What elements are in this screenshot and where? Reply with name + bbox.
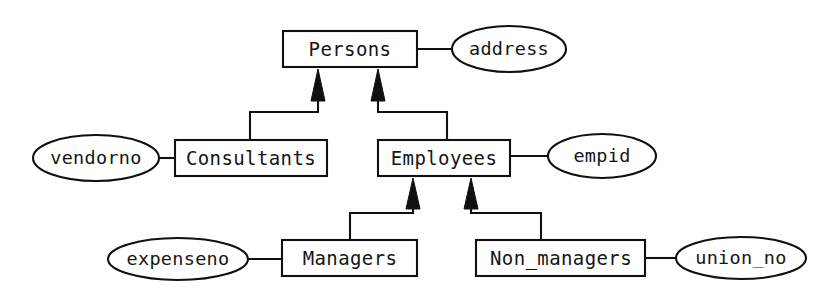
entity-employees[interactable]: Employees <box>378 140 510 176</box>
managers-isa-arrowhead <box>406 178 420 209</box>
er-diagram-canvas: Persons Consultants Employees Managers N… <box>0 0 829 306</box>
entity-persons[interactable]: Persons <box>283 31 417 67</box>
attribute-vendorno[interactable]: vendorno <box>33 135 159 181</box>
managers-isa-employees-path <box>350 209 413 240</box>
entity-label-employees: Employees <box>391 147 498 169</box>
attribute-label-expenseno: expenseno <box>127 248 230 269</box>
consultants-isa-persons-path <box>250 101 318 140</box>
er-diagram-svg: Persons Consultants Employees Managers N… <box>0 0 829 306</box>
isa-connectors-employees <box>350 209 541 240</box>
entity-label-consultants: Consultants <box>186 147 316 169</box>
non_managers-isa-arrowhead <box>464 178 478 209</box>
employees-isa-persons-path <box>378 101 447 140</box>
attribute-label-union-no: union_no <box>695 247 787 268</box>
isa-connectors-persons <box>250 101 447 140</box>
entity-label-persons: Persons <box>309 38 392 60</box>
entity-non-managers[interactable]: Non_managers <box>476 240 645 276</box>
employees-isa-arrowhead <box>371 69 385 101</box>
entity-managers[interactable]: Managers <box>282 240 417 276</box>
attribute-union-no[interactable]: union_no <box>676 237 806 279</box>
consultants-isa-arrowhead <box>311 69 325 101</box>
entity-consultants[interactable]: Consultants <box>175 140 327 176</box>
attribute-label-vendorno: vendorno <box>50 147 142 168</box>
attribute-address[interactable]: address <box>452 26 566 72</box>
attribute-expenseno[interactable]: expenseno <box>108 238 248 280</box>
entity-label-non-managers: Non_managers <box>490 247 632 270</box>
attribute-label-empid: empid <box>573 145 630 166</box>
non_managers-isa-employees-path <box>471 209 541 240</box>
entity-label-managers: Managers <box>303 247 398 269</box>
attribute-label-address: address <box>469 38 549 59</box>
attribute-empid[interactable]: empid <box>548 134 656 178</box>
